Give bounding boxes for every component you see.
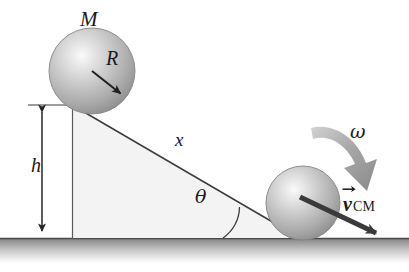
velocity-vector-symbol: v [343, 193, 353, 215]
label-velocity-cm: vCM [343, 194, 375, 214]
label-angle-theta: θ [195, 187, 206, 206]
label-angular-velocity-omega: ω [350, 122, 366, 141]
velocity-letter: v [343, 193, 352, 215]
label-distance-x: x [175, 130, 183, 149]
diagram-canvas [0, 0, 409, 272]
upper-sphere [49, 28, 135, 114]
label-radius-R: R [106, 48, 118, 68]
ground-surface [0, 238, 409, 263]
velocity-subscript: CM [353, 199, 375, 214]
label-height-h: h [31, 155, 41, 175]
physics-diagram-rolling-sphere: M R x h θ ω vCM [0, 0, 409, 272]
label-mass-M: M [80, 9, 98, 30]
inclined-plane [72, 104, 300, 239]
